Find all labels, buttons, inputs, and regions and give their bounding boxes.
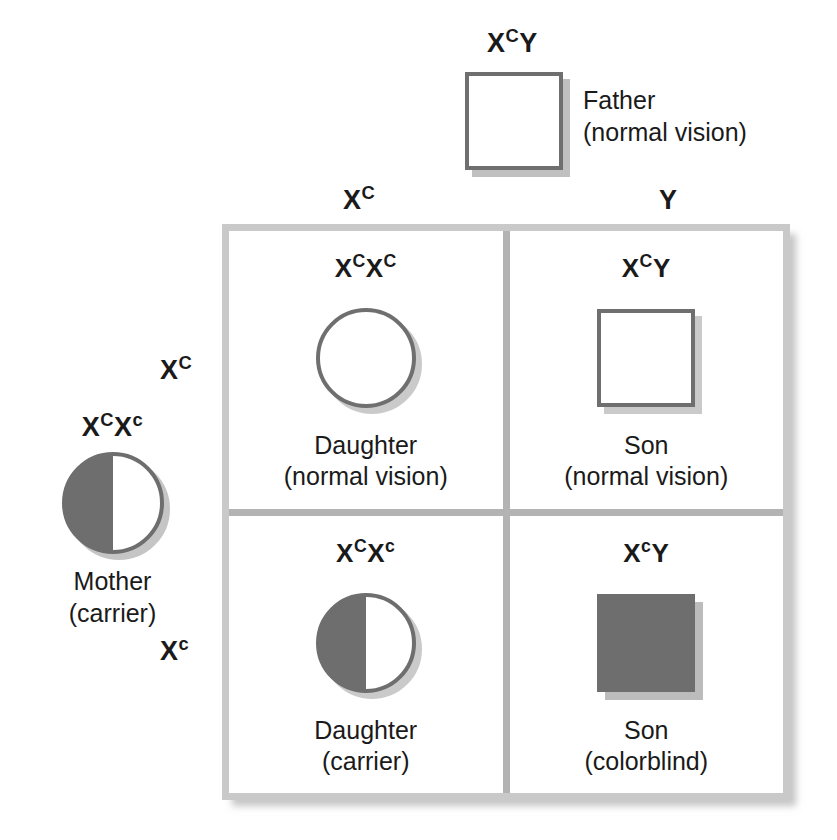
open-circle-svg — [314, 306, 418, 410]
row-header-0-sup: C — [179, 352, 193, 373]
cell-2-genotype: XCXc — [336, 538, 395, 569]
son-normal-square-icon — [597, 309, 695, 407]
column-header-0-sup: C — [362, 182, 376, 203]
father-group: XCY Father (normal vision) — [455, 28, 795, 193]
cell-3-symbol-wrap — [597, 585, 695, 701]
daughter-carrier-circle-icon — [314, 591, 418, 695]
father-label: Father (normal vision) — [583, 84, 747, 148]
mother-carrier-circle-icon — [60, 450, 166, 556]
cell-0-label: Daughter (normal vision) — [284, 430, 448, 493]
cell-2-label: Daughter (carrier) — [314, 715, 417, 778]
mother-allele-2: X — [114, 412, 133, 442]
father-genotype: XCY — [487, 28, 538, 59]
son-colorblind-square-icon — [597, 594, 695, 692]
half-filled-circle-svg — [60, 450, 166, 556]
cell-2-symbol-wrap — [314, 585, 418, 701]
column-header-0-allele: X — [343, 185, 362, 215]
cell-1-genotype: XCY — [622, 253, 671, 284]
father-label-line-1: Father — [583, 84, 747, 116]
mother-allele-1: X — [82, 412, 101, 442]
cell-3-allele-1: X — [623, 538, 641, 568]
cell-2-allele-2: X — [367, 538, 385, 568]
cell-1-label-line-2: (normal vision) — [564, 461, 728, 492]
father-allele-1: X — [487, 28, 506, 58]
mother-sup-1: C — [100, 409, 114, 430]
father-male-square-icon — [465, 72, 563, 170]
cell-0-label-line-1: Daughter — [284, 430, 448, 461]
cell-2-label-line-1: Daughter — [314, 715, 417, 746]
cell-0-label-line-2: (normal vision) — [284, 461, 448, 492]
cell-3-label-line-1: Son — [584, 715, 708, 746]
mother-sup-2: c — [133, 409, 144, 430]
cell-2-sup-2: c — [385, 536, 395, 556]
mother-genotype: XCXc — [30, 412, 195, 443]
row-header-0-allele: X — [160, 355, 179, 385]
cell-1-label-line-1: Son — [564, 430, 728, 461]
cell-0-sup-1: C — [352, 251, 365, 271]
punnett-cell-top-left[interactable]: XCXC Daughter (normal vision) — [229, 231, 503, 509]
cell-0-sup-2: C — [384, 251, 397, 271]
cell-0-allele-1: X — [335, 253, 353, 283]
cell-3-allele-2: Y — [651, 538, 669, 568]
column-header-0: XC — [343, 185, 375, 216]
father-sup-1: C — [506, 25, 520, 46]
punnett-square-grid: XCXC Daughter (normal vision) XCY Son (n… — [222, 224, 790, 800]
mother-group: XCXc Mother (carrier) — [30, 412, 195, 642]
cell-1-allele-1: X — [622, 253, 640, 283]
cell-0-symbol-wrap — [314, 300, 418, 416]
row-header-0: XC — [160, 355, 192, 386]
punnett-cell-bottom-left[interactable]: XCXc Daughter (carrier) — [229, 516, 503, 794]
punnett-cell-bottom-right[interactable]: XcY Son (colorblind) — [510, 516, 784, 794]
cell-1-sup-1: C — [640, 251, 653, 271]
cell-2-sup-1: C — [354, 536, 367, 556]
column-header-1: Y — [659, 185, 678, 216]
mother-label-line-2: (carrier) — [30, 597, 195, 629]
cell-3-label: Son (colorblind) — [584, 715, 708, 778]
cell-0-genotype: XCXC — [335, 253, 397, 284]
cell-3-sup-1: c — [641, 536, 651, 556]
cell-1-symbol-wrap — [597, 300, 695, 416]
column-header-1-allele: Y — [659, 185, 678, 215]
cell-2-label-line-2: (carrier) — [314, 746, 417, 777]
cell-2-allele-1: X — [336, 538, 354, 568]
cell-0-allele-2: X — [366, 253, 384, 283]
cell-1-allele-2: Y — [653, 253, 671, 283]
daughter-normal-circle-icon — [314, 306, 418, 410]
punnett-cell-top-right[interactable]: XCY Son (normal vision) — [510, 231, 784, 509]
cell-3-genotype: XcY — [623, 538, 669, 569]
cell-1-label: Son (normal vision) — [564, 430, 728, 493]
father-label-line-2: (normal vision) — [583, 116, 747, 148]
father-allele-2: Y — [519, 28, 538, 58]
mother-label-line-1: Mother — [30, 565, 195, 597]
half-filled-circle-svg — [314, 591, 418, 695]
mother-label: Mother (carrier) — [30, 565, 195, 629]
cell-3-label-line-2: (colorblind) — [584, 746, 708, 777]
